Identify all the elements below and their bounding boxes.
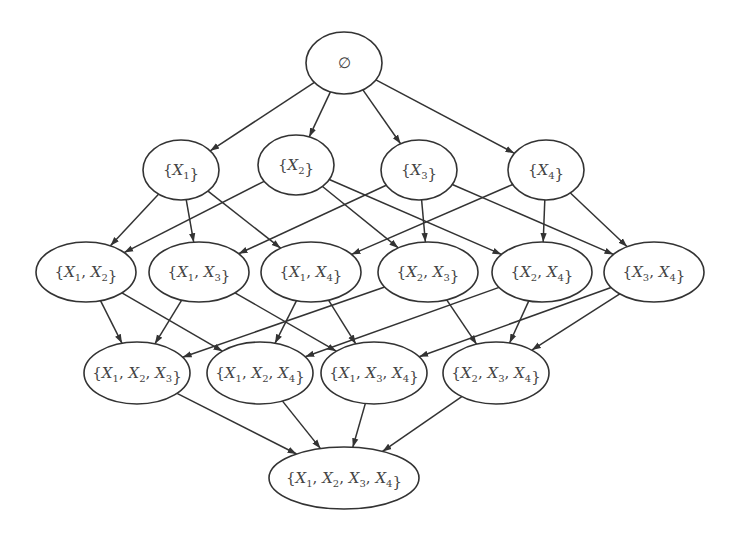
node-X2X3: {X2, X3} [378, 242, 478, 302]
edge-X1X3X4-to-X1X2X3X4 [353, 404, 366, 448]
node-label: ∅ [338, 54, 351, 72]
node-X1X2X3: {X1, X2, X3} [84, 342, 190, 404]
node-X1X2: {X1, X2} [36, 242, 136, 302]
edge-X2X4-to-X2X3X4 [510, 301, 529, 343]
node-X1X4: {X1, X4} [261, 242, 361, 302]
node-X1X2X4: {X1, X2, X4} [207, 342, 313, 404]
edge-empty-to-X3 [363, 90, 401, 144]
arrow-icon [155, 300, 182, 344]
arrow-icon [353, 404, 366, 448]
arrow-icon [283, 401, 321, 449]
node-X2X4: {X2, X4} [492, 242, 592, 302]
node-X1X3X4: {X1, X3, X4} [321, 342, 427, 404]
edge-X2X3X4-to-X1X2X3X4 [383, 397, 462, 452]
arrow-icon [329, 300, 356, 344]
edge-X4-to-X2X4 [543, 200, 545, 242]
edge-X1X2-to-X1X2X3 [101, 301, 123, 344]
node-X3X4: {X3, X4} [604, 242, 704, 302]
node-X1X3: {X1, X3} [149, 242, 249, 302]
subset-lattice-diagram: ∅{X1}{X2}{X3}{X4}{X1, X2}{X1, X3}{X1, X4… [0, 0, 741, 536]
nodes-layer: ∅{X1}{X2}{X3}{X4}{X1, X2}{X1, X3}{X1, X4… [36, 32, 704, 509]
node-X3: {X3} [381, 140, 457, 200]
arrow-icon [376, 80, 515, 153]
arrow-icon [101, 301, 123, 344]
node-X1X2X3X4: {X1, X2, X3, X4} [269, 447, 419, 509]
arrow-icon [543, 200, 545, 242]
edge-X1X3-to-X1X2X3 [155, 300, 182, 344]
arrow-icon [363, 90, 401, 144]
arrow-icon [309, 92, 330, 137]
edge-empty-to-X2 [309, 92, 330, 137]
node-X1: {X1} [143, 140, 219, 200]
edge-X1X4-to-X1X3X4 [329, 300, 356, 344]
edge-X1X2X4-to-X1X2X3X4 [283, 401, 321, 449]
edge-empty-to-X4 [376, 80, 515, 153]
node-X4: {X4} [508, 140, 584, 200]
node-X2: {X2} [258, 135, 334, 195]
arrow-icon [383, 397, 462, 452]
node-X2X3X4: {X2, X3, X4} [443, 342, 549, 404]
arrow-icon [510, 301, 529, 343]
node-empty: ∅ [306, 32, 382, 94]
